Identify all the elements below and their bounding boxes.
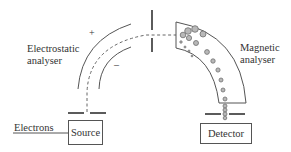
magnetic-analyser-label-line2: analyser [240,54,275,66]
magnetic-analyser-label-line1: Magnetic [240,42,280,54]
source-label: Source [71,127,100,138]
electrostatic-outer-plate [78,24,131,89]
mass-spectrometer-diagram: Electrostatic analyser + – Magnetic anal… [0,0,291,152]
electrons-label: Electrons [14,122,54,134]
minus-sign: – [114,59,119,71]
detector-box: Detector [200,123,252,144]
electrostatic-analyser-label-line2: analyser [27,55,62,67]
plus-sign: + [89,27,95,39]
source-box: Source [68,120,103,145]
ion-path-dashed [87,35,176,112]
electrostatic-analyser-label-line1: Electrostatic [27,43,79,55]
detector-label: Detector [208,128,244,139]
